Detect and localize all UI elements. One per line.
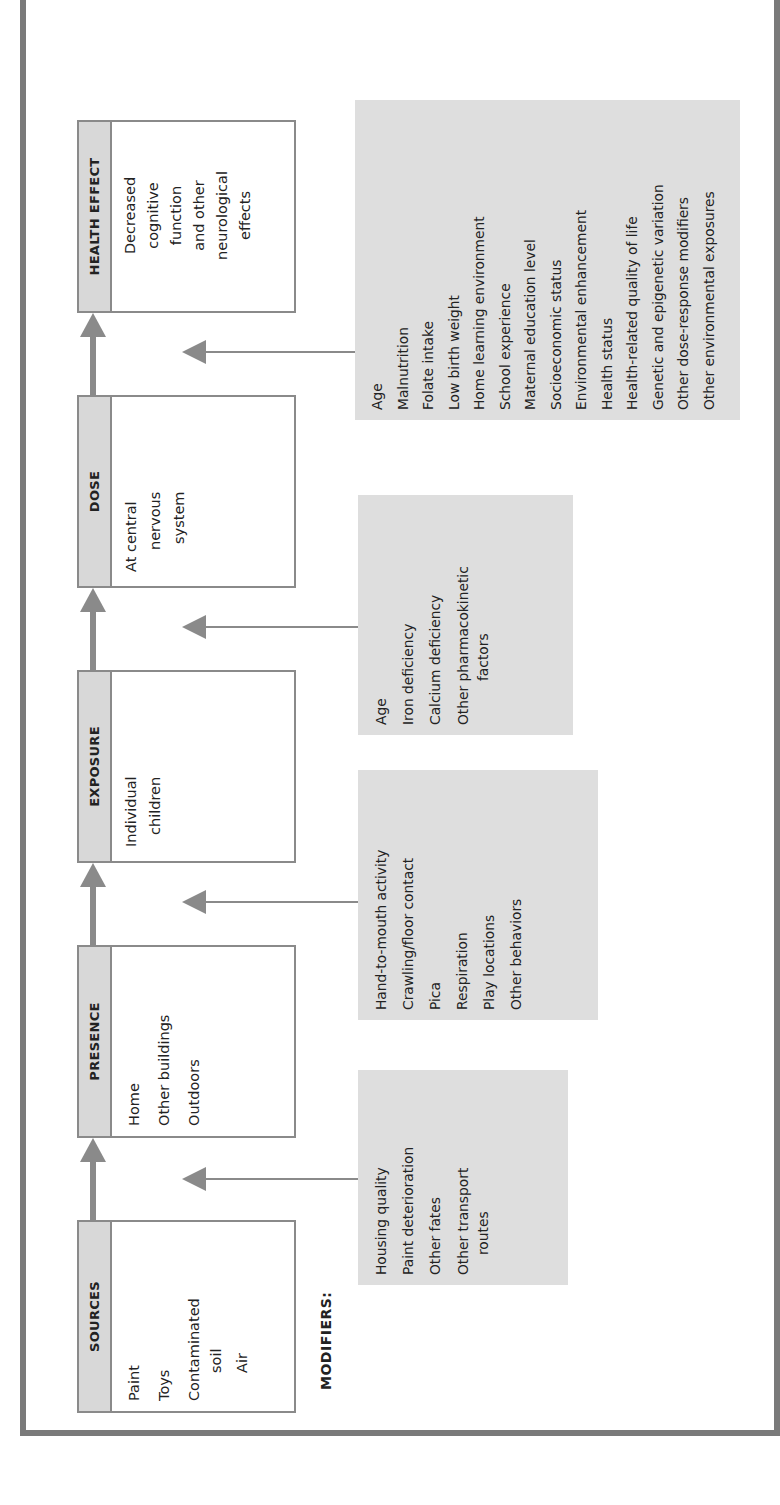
modifier-item: Other dose-response modifiers — [671, 108, 697, 410]
stage-title-health-effect: HEALTH EFFECT — [79, 122, 112, 311]
arrow-head-icon — [182, 615, 206, 639]
stage-item: cognitive — [142, 130, 165, 301]
modifier-item: Pica — [422, 778, 449, 1010]
modifier-item: School experience — [493, 108, 519, 410]
modifier-box-sources-presence: Housing quality Paint deterioration Othe… — [358, 1070, 568, 1285]
stage-item: Contaminated — [183, 1230, 205, 1401]
modifier-connector — [206, 1178, 358, 1180]
stage-title-sources: SOURCES — [79, 1222, 112, 1411]
modifier-item: routes — [473, 1078, 493, 1275]
stage-items-health-effect: Decreased cognitive function and other n… — [119, 130, 257, 301]
stage-title-presence: PRESENCE — [79, 947, 112, 1136]
flow-arrow-exposure-dose — [90, 608, 96, 670]
modifier-item: Low birth weight — [442, 108, 468, 410]
arrow-head-icon — [80, 863, 106, 887]
arrow-head-icon — [80, 313, 106, 337]
modifier-connector — [206, 351, 355, 353]
arrow-head-icon — [182, 1167, 206, 1191]
stage-box-exposure: EXPOSURE Individual children — [77, 670, 296, 863]
arrow-head-icon — [182, 890, 206, 914]
stage-items-exposure: Individual children — [119, 680, 167, 851]
modifier-item: Other pharmacokinetic — [453, 503, 473, 725]
stage-item: Individual — [119, 680, 143, 847]
stage-item: function — [165, 130, 188, 301]
modifier-item: Home learning environment — [467, 108, 493, 410]
modifier-item: Age — [368, 503, 395, 725]
stage-item: Paint — [119, 1230, 149, 1401]
flow-arrow-sources-presence — [90, 1158, 96, 1220]
stage-item: children — [143, 680, 167, 847]
modifier-box-presence-exposure: Hand-to-mouth activity Crawling/floor co… — [358, 770, 598, 1020]
stage-item: Home — [119, 955, 149, 1126]
modifier-connector — [206, 626, 358, 628]
flow-arrow-presence-exposure — [90, 883, 96, 945]
stage-item: effects — [234, 130, 257, 301]
stage-title-dose: DOSE — [79, 397, 112, 586]
modifier-item: Respiration — [449, 778, 476, 1010]
stage-box-health-effect: HEALTH EFFECT Decreased cognitive functi… — [77, 120, 296, 313]
modifier-item: Health status — [595, 108, 621, 410]
stage-item: Other buildings — [149, 955, 179, 1126]
stage-item: Decreased — [119, 130, 142, 301]
modifier-item: Other behaviors — [503, 778, 530, 1010]
stage-item: nervous — [143, 405, 167, 572]
stage-box-dose: DOSE At central nervous system — [77, 395, 296, 588]
modifiers-label: MODIFIERS: — [318, 1292, 334, 1390]
stage-item: Toys — [149, 1230, 179, 1401]
modifier-item: factors — [473, 503, 493, 725]
stage-item: soil — [205, 1230, 227, 1401]
stage-items-presence: Home Other buildings Outdoors — [119, 955, 209, 1126]
modifier-item: Housing quality — [368, 1078, 395, 1275]
stage-item: Outdoors — [179, 955, 209, 1126]
modifier-item: Crawling/floor contact — [395, 778, 422, 1010]
arrow-head-icon — [80, 1138, 106, 1162]
modifier-connector — [206, 901, 358, 903]
modifier-item: Iron deficiency — [395, 503, 422, 725]
modifier-item: Maternal education level — [518, 108, 544, 410]
stage-items-dose: At central nervous system — [119, 405, 191, 576]
modifier-item: Other transport — [453, 1078, 473, 1275]
modifier-item: Hand-to-mouth activity — [368, 778, 395, 1010]
stage-box-presence: PRESENCE Home Other buildings Outdoors — [77, 945, 296, 1138]
modifier-item: Paint deterioration — [395, 1078, 422, 1275]
stage-item: Air — [227, 1230, 257, 1401]
stage-title-exposure: EXPOSURE — [79, 672, 112, 861]
arrow-head-icon — [80, 588, 106, 612]
modifier-item: Calcium deficiency — [422, 503, 449, 725]
stage-item: At central — [119, 405, 143, 572]
modifier-item: Age — [365, 108, 391, 410]
arrow-head-icon — [182, 340, 206, 364]
modifier-item: Environmental enhancement — [569, 108, 595, 410]
stage-item: neurological — [211, 130, 234, 301]
modifier-item: Health-related quality of life — [620, 108, 646, 410]
flow-arrow-dose-health-effect — [90, 333, 96, 395]
modifier-item: Genetic and epigenetic variation — [646, 108, 672, 410]
stage-item: and other — [188, 130, 211, 301]
modifier-box-exposure-dose: Age Iron deficiency Calcium deficiency O… — [358, 495, 573, 735]
stage-item: system — [167, 405, 191, 572]
modifier-item: Other environmental exposures — [697, 108, 723, 410]
modifier-item: Play locations — [476, 778, 503, 1010]
stage-box-sources: SOURCES Paint Toys Contaminated soil Air — [77, 1220, 296, 1413]
modifier-item: Folate intake — [416, 108, 442, 410]
modifier-item: Malnutrition — [391, 108, 417, 410]
modifier-box-dose-health-effect: Age Malnutrition Folate intake Low birth… — [355, 100, 740, 420]
modifier-item: Socioeconomic status — [544, 108, 570, 410]
stage-items-sources: Paint Toys Contaminated soil Air — [119, 1230, 257, 1401]
modifier-item: Other fates — [422, 1078, 449, 1275]
